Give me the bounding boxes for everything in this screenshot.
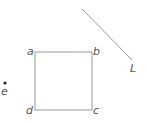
vertex-label-c: c xyxy=(93,104,99,117)
vertex-label-b: b xyxy=(93,45,100,58)
line-label-l: L xyxy=(130,62,136,75)
vertex-label-a: a xyxy=(27,45,34,58)
vertex-label-d: d xyxy=(26,104,34,117)
geometry-diagram: a b c d L e xyxy=(0,0,147,123)
point-label-e: e xyxy=(1,85,8,98)
square-abcd xyxy=(35,52,92,110)
